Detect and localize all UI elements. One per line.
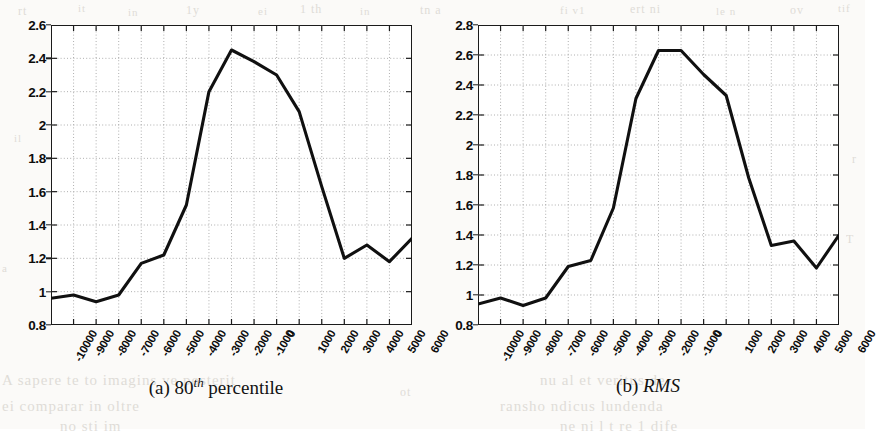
plot-area-a: 0.811.21.41.61.822.22.42.6-10000-9000-80… [51,25,412,325]
y-axis-tick-mark [46,224,51,225]
y-axis-tick-label: 1.4 [28,218,46,233]
x-axis-tick-label: -2000 [249,328,273,358]
y-axis-tick-label: 2.8 [455,18,473,33]
y-axis-tick-mark [473,324,478,325]
y-axis-tick-label: 1.8 [28,151,46,166]
y-axis-tick-label: 1.4 [455,228,473,243]
y-axis-tick-label: 1.2 [28,251,46,266]
y-axis-tick-label: 2.4 [28,51,46,66]
plot-area-b: 0.811.21.41.61.822.22.42.62.8-10000-9000… [478,25,839,325]
y-axis-tick-label: 2.6 [455,48,473,63]
y-axis-tick-mark [473,84,478,85]
x-axis-tick-label: -5000 [182,328,206,358]
x-axis-tick-label: -2000 [676,328,700,358]
x-axis-tick-label: -3000 [227,328,251,358]
x-axis-tick-label: -3000 [654,328,678,358]
x-axis-tick-label: -5000 [609,328,633,358]
x-axis-tick-label: 4000 [810,328,833,355]
y-axis-tick-label: 2.2 [28,84,46,99]
x-axis-tick-label: 1000 [315,328,338,355]
y-axis-tick-label: 1 [466,288,473,303]
y-axis-tick-mark [46,324,51,325]
y-axis-tick-mark [46,258,51,259]
x-axis-tick-label: 4000 [383,328,406,355]
x-axis-tick-label: -8000 [114,328,138,358]
y-axis-tick-label: 1.6 [455,198,473,213]
y-axis-tick-mark [473,114,478,115]
caption-a: (a) 80th percentile [0,375,432,399]
x-axis-tick-label: 1000 [742,328,765,355]
x-axis-tick-label: 6000 [855,328,878,355]
subfigure-b: 0.811.21.41.61.822.22.42.62.8-10000-9000… [432,0,864,429]
x-axis-tick-label: -4000 [631,328,655,358]
x-axis-tick-label: -4000 [204,328,228,358]
y-axis-tick-label: 0.8 [28,318,46,333]
plot-svg-a [51,25,412,325]
y-axis-tick-label: 1.2 [455,258,473,273]
y-axis-tick-mark [473,24,478,25]
caption-a-main: 80 [175,377,194,398]
x-axis-tick-label: -7000 [137,328,161,358]
y-axis-tick-mark [46,24,51,25]
x-axis-tick-label: -6000 [586,328,610,358]
y-axis-tick-mark [46,124,51,125]
y-axis-tick-mark [473,144,478,145]
y-axis-tick-mark [46,58,51,59]
y-axis-tick-label: 2.6 [28,18,46,33]
y-axis-tick-mark [473,264,478,265]
x-axis-tick-label: 2000 [765,328,788,355]
x-axis-tick-label: 2000 [338,328,361,355]
x-axis-tick-label: 5000 [833,328,856,355]
y-axis-tick-mark [473,174,478,175]
y-axis-tick-mark [473,204,478,205]
caption-b: (b) RMS [432,375,864,397]
x-axis-tick-label: 3000 [361,328,384,355]
y-axis-tick-label: 2.4 [455,78,473,93]
y-axis-tick-label: 2 [39,118,46,133]
y-axis-tick-label: 2.2 [455,108,473,123]
x-axis-tick-label: -7000 [564,328,588,358]
data-line [478,51,839,306]
caption-b-prefix: (b) [616,375,638,396]
y-axis-tick-mark [46,191,51,192]
y-axis-tick-label: 2 [466,138,473,153]
x-axis-tick-label: -6000 [159,328,183,358]
x-axis-tick-label: 5000 [406,328,429,355]
caption-a-superscript: th [194,375,204,390]
y-axis-tick-label: 1.6 [28,184,46,199]
caption-a-prefix: (a) [149,377,170,398]
x-axis-tick-label: -8000 [541,328,565,358]
y-axis-tick-mark [46,91,51,92]
y-axis-tick-label: 1 [39,284,46,299]
x-axis-tick-label: 3000 [788,328,811,355]
caption-b-main: RMS [643,375,680,396]
y-axis-tick-label: 1.8 [455,168,473,183]
y-axis-tick-label: 0.8 [455,318,473,333]
y-axis-tick-mark [473,294,478,295]
subfigure-a: 0.811.21.41.61.822.22.42.6-10000-9000-80… [0,0,432,429]
y-axis-tick-mark [473,54,478,55]
y-axis-tick-mark [46,158,51,159]
y-axis-tick-mark [473,234,478,235]
caption-a-suffix: percentile [208,377,283,398]
y-axis-tick-mark [46,291,51,292]
plot-svg-b [478,25,839,325]
